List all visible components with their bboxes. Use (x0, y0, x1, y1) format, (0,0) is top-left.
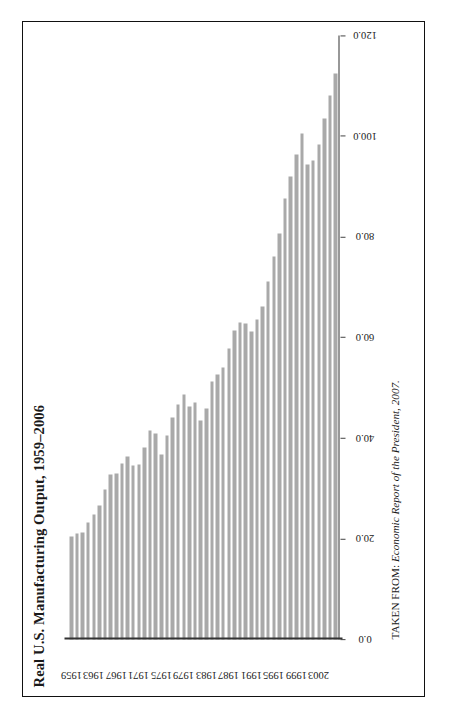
bar-1981 (193, 402, 196, 639)
year-tick-label: 1999 (285, 670, 306, 681)
bar-1964 (97, 505, 100, 639)
year-tick-label: 1975 (150, 670, 171, 681)
year-tick-label: 1995 (263, 670, 284, 681)
bar-1966 (108, 474, 111, 639)
value-tick-label: 100.0 (353, 130, 377, 141)
year-tick-1975: 1975 (155, 655, 166, 695)
year-tick-1959: 1959 (65, 655, 76, 695)
bar-1991 (249, 331, 252, 639)
bar-row (305, 35, 308, 639)
bar-row (288, 35, 291, 639)
tick-mark-icon (340, 639, 345, 640)
tick-mark-icon (340, 437, 345, 438)
bars-layer (68, 35, 338, 639)
bar-row (255, 35, 258, 639)
value-tick: 60.0 (340, 328, 370, 347)
bar-row (80, 35, 83, 639)
bar-2002 (311, 160, 314, 639)
year-tick-label: 1963 (83, 670, 104, 681)
value-tick-label: 80.0 (355, 231, 374, 242)
year-tick-1979: 1979 (178, 655, 189, 695)
bar-1982 (198, 420, 201, 639)
bar-row (260, 35, 263, 639)
bar-1967 (114, 473, 117, 639)
year-tick-label: 1959 (60, 670, 81, 681)
bar-1976 (165, 435, 168, 639)
value-tick-label: 40.0 (355, 432, 374, 443)
bar-row (187, 35, 190, 639)
bar-row (272, 35, 275, 639)
bar-plot-area (68, 35, 338, 639)
bar-1962 (86, 522, 89, 639)
year-tick-1999: 1999 (290, 655, 301, 695)
bar-row (294, 35, 297, 639)
bar-1972 (142, 447, 145, 639)
bar-1971 (137, 464, 140, 639)
bar-row (215, 35, 218, 639)
value-tick-label: 60.0 (355, 332, 374, 343)
year-tick-label: 1983 (195, 670, 216, 681)
bar-row (86, 35, 89, 639)
year-tick-1967: 1967 (110, 655, 121, 695)
bar-1990 (243, 323, 246, 639)
bar-1968 (120, 463, 123, 639)
tick-mark-icon (340, 337, 345, 338)
category-axis: 1959196319671971197519791983198719911995… (68, 655, 338, 695)
bar-1975 (159, 454, 162, 639)
bar-1978 (176, 404, 179, 639)
year-tick-label: 1971 (128, 670, 149, 681)
bar-row (221, 35, 224, 639)
page-title: Real U.S. Manufacturing Output, 1959–200… (30, 27, 47, 687)
source-note: TAKEN FROM: Economic Report of the Presi… (388, 380, 400, 639)
bar-row (238, 35, 241, 639)
value-tick-label: 0.0 (358, 634, 371, 645)
bar-row (69, 35, 72, 639)
bar-1973 (148, 430, 151, 639)
bar-row (317, 35, 320, 639)
bar-row (153, 35, 156, 639)
bar-1983 (204, 408, 207, 639)
bar-1997 (283, 198, 286, 639)
bar-row (165, 35, 168, 639)
bar-row (108, 35, 111, 639)
bar-1979 (182, 394, 185, 639)
bar-1984 (210, 381, 213, 639)
bar-row (182, 35, 185, 639)
bar-1974 (153, 433, 156, 639)
bar-1999 (294, 154, 297, 639)
bar-row (137, 35, 140, 639)
bar-2000 (300, 133, 303, 639)
rotated-figure-stage: Real U.S. Manufacturing Output, 1959–200… (24, 23, 423, 695)
bar-row (249, 35, 252, 639)
bar-row (142, 35, 145, 639)
bar-1985 (215, 374, 218, 639)
bar-row (322, 35, 325, 639)
value-tick: 20.0 (340, 529, 370, 548)
bar-1988 (232, 330, 235, 639)
bar-1994 (266, 281, 269, 639)
bar-2005 (328, 95, 331, 639)
bar-1996 (277, 233, 280, 639)
bar-row (170, 35, 173, 639)
tick-mark-icon (340, 135, 345, 136)
bar-row (198, 35, 201, 639)
bar-row (210, 35, 213, 639)
tick-mark-icon (340, 35, 345, 36)
bar-1963 (92, 514, 95, 639)
bar-row (159, 35, 162, 639)
bar-row (148, 35, 151, 639)
value-tick-label: 20.0 (355, 533, 374, 544)
year-tick-label: 1967 (105, 670, 126, 681)
bar-1995 (272, 256, 275, 639)
bar-row (92, 35, 95, 639)
tick-mark-icon (340, 236, 345, 237)
bar-1977 (170, 417, 173, 639)
year-tick-1983: 1983 (200, 655, 211, 695)
bar-row (243, 35, 246, 639)
bar-1993 (260, 306, 263, 639)
bar-1987 (227, 348, 230, 639)
category-axis-line (338, 35, 339, 639)
bar-row (232, 35, 235, 639)
bar-1986 (221, 367, 224, 639)
bar-row (204, 35, 207, 639)
